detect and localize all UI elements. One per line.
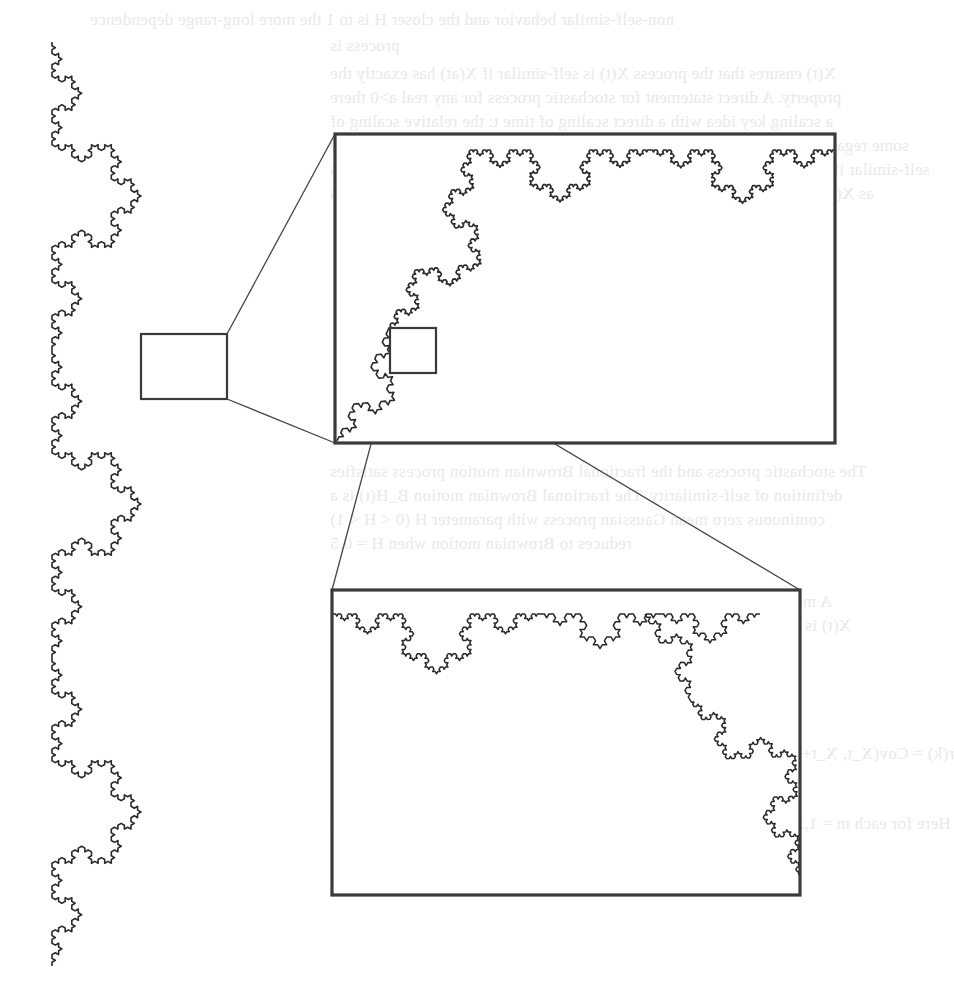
connector-line <box>227 399 335 443</box>
koch-curve-main <box>52 42 141 966</box>
koch-curve-path <box>52 350 141 658</box>
koch-curve-path <box>52 42 141 350</box>
zoom-selection-box-small <box>141 334 227 399</box>
koch-curve-path <box>52 658 141 966</box>
inset-2-background <box>332 590 800 895</box>
connector-line <box>227 134 335 334</box>
inset-1-background <box>335 134 835 443</box>
